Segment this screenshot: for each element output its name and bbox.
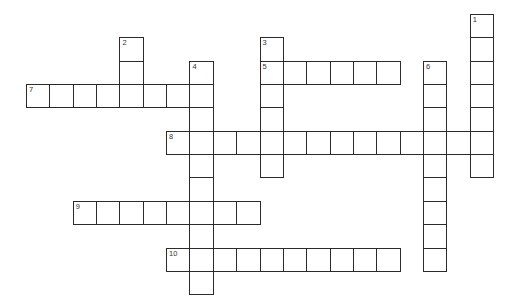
crossword-cell[interactable] bbox=[189, 107, 213, 131]
crossword-cell[interactable] bbox=[423, 154, 447, 178]
crossword-cell[interactable] bbox=[376, 61, 400, 85]
crossword-cell[interactable]: 8 bbox=[166, 131, 190, 155]
crossword-cell[interactable] bbox=[260, 154, 284, 178]
crossword-cell[interactable] bbox=[283, 248, 307, 272]
crossword-cell[interactable] bbox=[189, 177, 213, 201]
crossword-cell[interactable] bbox=[330, 61, 354, 85]
crossword-cell[interactable] bbox=[353, 248, 377, 272]
crossword-cell[interactable] bbox=[49, 84, 73, 108]
crossword-cell[interactable] bbox=[376, 131, 400, 155]
crossword-cell[interactable] bbox=[96, 201, 120, 225]
crossword-cell[interactable] bbox=[423, 131, 447, 155]
clue-number: 7 bbox=[29, 86, 33, 94]
crossword-cell[interactable] bbox=[470, 37, 494, 61]
crossword-cell[interactable] bbox=[283, 131, 307, 155]
crossword-cell[interactable] bbox=[330, 131, 354, 155]
crossword-cell[interactable]: 10 bbox=[166, 248, 190, 272]
clue-number: 1 bbox=[473, 16, 477, 24]
crossword-grid: 12354678910 bbox=[0, 0, 515, 302]
clue-number: 4 bbox=[192, 63, 196, 71]
crossword-cell[interactable] bbox=[306, 61, 330, 85]
crossword-cell[interactable] bbox=[189, 224, 213, 248]
crossword-cell[interactable] bbox=[119, 201, 143, 225]
crossword-cell[interactable]: 7 bbox=[26, 84, 50, 108]
crossword-cell[interactable] bbox=[189, 248, 213, 272]
crossword-cell[interactable]: 1 bbox=[470, 14, 494, 38]
crossword-cell[interactable] bbox=[306, 248, 330, 272]
crossword-cell[interactable] bbox=[470, 107, 494, 131]
crossword-cell[interactable] bbox=[189, 154, 213, 178]
crossword-cell[interactable] bbox=[260, 248, 284, 272]
crossword-cell[interactable] bbox=[236, 201, 260, 225]
crossword-cell[interactable] bbox=[423, 201, 447, 225]
crossword-cell[interactable] bbox=[283, 61, 307, 85]
crossword-cell[interactable] bbox=[470, 84, 494, 108]
crossword-cell[interactable] bbox=[189, 201, 213, 225]
crossword-cell[interactable] bbox=[423, 84, 447, 108]
crossword-cell[interactable] bbox=[470, 61, 494, 85]
clue-number: 5 bbox=[263, 63, 267, 71]
crossword-cell[interactable] bbox=[353, 61, 377, 85]
crossword-cell[interactable] bbox=[423, 224, 447, 248]
crossword-cell[interactable] bbox=[166, 201, 190, 225]
crossword-cell[interactable] bbox=[470, 131, 494, 155]
crossword-cell[interactable] bbox=[213, 201, 237, 225]
crossword-cell[interactable] bbox=[96, 84, 120, 108]
crossword-cell[interactable] bbox=[423, 107, 447, 131]
crossword-cell[interactable] bbox=[189, 271, 213, 295]
crossword-cell[interactable] bbox=[423, 248, 447, 272]
crossword-cell[interactable] bbox=[236, 131, 260, 155]
crossword-cell[interactable] bbox=[189, 84, 213, 108]
crossword-cell[interactable] bbox=[143, 84, 167, 108]
crossword-cell[interactable] bbox=[353, 131, 377, 155]
clue-number: 2 bbox=[122, 39, 126, 47]
crossword-cell[interactable] bbox=[143, 201, 167, 225]
crossword-cell[interactable] bbox=[119, 84, 143, 108]
crossword-cell[interactable]: 5 bbox=[260, 61, 284, 85]
clue-number: 9 bbox=[76, 203, 80, 211]
crossword-cell[interactable] bbox=[470, 154, 494, 178]
crossword-cell[interactable] bbox=[236, 248, 260, 272]
crossword-cell[interactable]: 2 bbox=[119, 37, 143, 61]
crossword-cell[interactable] bbox=[260, 107, 284, 131]
crossword-cell[interactable]: 4 bbox=[189, 61, 213, 85]
crossword-cell[interactable]: 3 bbox=[260, 37, 284, 61]
crossword-cell[interactable]: 9 bbox=[73, 201, 97, 225]
crossword-cell[interactable] bbox=[446, 131, 470, 155]
crossword-cell[interactable] bbox=[423, 177, 447, 201]
crossword-cell[interactable] bbox=[376, 248, 400, 272]
crossword-cell[interactable] bbox=[73, 84, 97, 108]
crossword-cell[interactable] bbox=[260, 84, 284, 108]
crossword-cell[interactable]: 6 bbox=[423, 61, 447, 85]
crossword-cell[interactable] bbox=[400, 131, 424, 155]
crossword-cell[interactable] bbox=[306, 131, 330, 155]
crossword-cell[interactable] bbox=[119, 61, 143, 85]
crossword-cell[interactable] bbox=[213, 248, 237, 272]
crossword-cell[interactable] bbox=[213, 131, 237, 155]
clue-number: 3 bbox=[263, 39, 267, 47]
crossword-cell[interactable] bbox=[189, 131, 213, 155]
clue-number: 6 bbox=[426, 63, 430, 71]
clue-number: 10 bbox=[169, 250, 177, 258]
crossword-cell[interactable] bbox=[166, 84, 190, 108]
crossword-cell[interactable] bbox=[260, 131, 284, 155]
clue-number: 8 bbox=[169, 133, 173, 141]
crossword-cell[interactable] bbox=[330, 248, 354, 272]
